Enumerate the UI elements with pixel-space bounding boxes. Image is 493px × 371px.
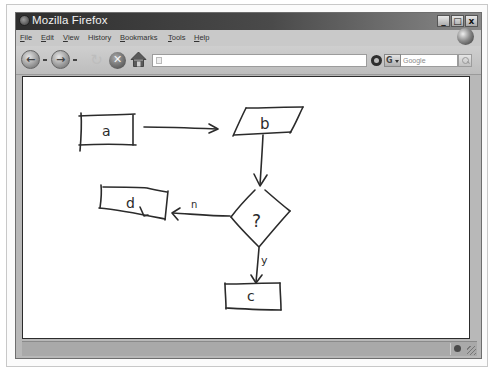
menu-tools[interactable]: Tools [168,33,186,42]
search-button[interactable] [458,54,472,67]
maximize-button[interactable]: □ [451,15,464,27]
node-decision-diamond: ? [231,190,290,247]
edge-a-to-b [144,124,218,133]
navigation-toolbar: ← → ↻ ✕ G Google [16,46,481,75]
status-bar [22,341,477,356]
menu-file[interactable]: File [20,33,32,42]
forward-button[interactable]: → [51,50,70,69]
forward-arrow-icon: → [56,53,65,66]
back-arrow-icon: ← [26,53,35,66]
page-favicon-icon [156,57,162,64]
edge-decision-to-d: n [172,199,230,220]
edge-n-label: n [191,199,197,210]
page-content: a b [22,76,470,339]
security-status-icon[interactable] [450,343,464,355]
stop-button[interactable]: ✕ [109,52,126,69]
node-d-box: d [99,185,168,220]
search-input[interactable]: Google [401,54,458,67]
node-c-box: c [225,283,281,310]
activity-throbber-icon [457,28,474,45]
google-g-icon: G [386,56,393,65]
minimize-button[interactable]: _ [437,15,450,27]
firefox-logo-icon [19,15,30,26]
go-button-icon[interactable] [371,55,382,66]
home-icon [130,51,147,68]
search-engine-selector[interactable]: G [384,54,401,67]
close-button[interactable]: x [465,15,478,27]
window-controls: _ □ x [437,15,478,27]
menu-edit[interactable]: Edit [41,33,54,42]
stop-x-icon: ✕ [113,53,122,66]
edge-b-to-decision [254,135,267,186]
title-bar[interactable]: Mozilla Firefox _ □ x [16,13,481,30]
menu-help[interactable]: Help [194,33,209,42]
node-b-label: b [260,115,270,133]
node-a-label: a [102,123,111,139]
reload-icon: ↻ [90,51,103,69]
back-button[interactable]: ← [21,50,40,69]
menu-history[interactable]: History [88,33,111,42]
edge-decision-to-c: y [251,248,268,283]
edge-y-label: y [261,254,268,267]
window-title: Mozilla Firefox [32,14,108,26]
browser-window: Mozilla Firefox _ □ x File Edit View His… [15,12,482,359]
node-b-parallelogram: b [233,107,303,136]
back-history-dropdown[interactable] [43,59,47,61]
reload-button[interactable]: ↻ [89,53,104,68]
home-button[interactable] [130,51,147,68]
node-c-label: c [247,288,255,304]
resize-grip[interactable] [467,346,476,355]
forward-history-dropdown[interactable] [73,59,77,61]
node-decision-label: ? [252,211,261,231]
flowchart-sketch: a b [23,77,471,340]
node-d-label: d [126,195,135,211]
menu-bar: File Edit View History Bookmarks Tools H… [16,30,481,46]
url-bar[interactable] [152,54,367,67]
menu-view[interactable]: View [63,33,79,42]
node-a-box: a [79,113,136,151]
menu-bookmarks[interactable]: Bookmarks [120,33,158,42]
